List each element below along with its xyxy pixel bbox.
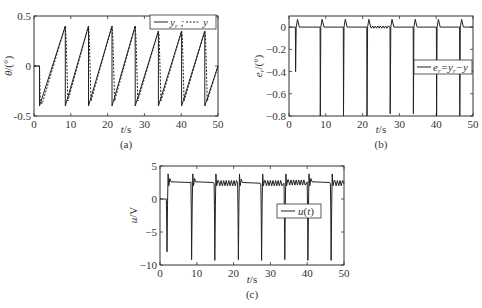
x-tick-label: 0	[31, 118, 37, 130]
caption-c: (c)	[246, 288, 259, 301]
y-tick-label: −0.4	[266, 66, 286, 78]
x-tick-label: 50	[468, 118, 480, 130]
y-tick-label: 0	[26, 60, 32, 72]
x-axis-label-c: t/s	[247, 273, 257, 285]
x-tick-label: 20	[102, 118, 114, 130]
legend-b: er=yr−y	[414, 60, 472, 75]
y-tick-label: −0.6	[266, 88, 286, 100]
x-tick-label: 10	[191, 267, 203, 279]
x-tick-label: 30	[394, 118, 406, 130]
chart-b: 010203040500−0.2−0.4−0.6−0.8 er=yr−y t/s…	[252, 16, 479, 151]
x-tick-label: 30	[265, 267, 277, 279]
caption-b: (b)	[375, 138, 388, 151]
x-tick-label: 0	[286, 118, 292, 130]
svg-text:y: y	[202, 16, 208, 28]
y-tick-label: 0.5	[17, 10, 31, 22]
chart-c: 0102030405050−5−10 u(t) t/s (c) u/V	[127, 160, 350, 301]
y-tick-label: 0	[152, 193, 158, 205]
svg-text:u(t): u(t)	[298, 205, 314, 218]
figure: 01020304050-0.500.5 yr ; y t/s (a) θ/(°)…	[0, 0, 482, 308]
x-tick-label: 10	[65, 118, 77, 130]
x-tick-label: 20	[228, 267, 240, 279]
x-tick-label: 40	[176, 118, 188, 130]
legend-c: u(t)	[277, 204, 321, 218]
x-tick-label: 40	[431, 118, 443, 130]
y-tick-label: −0.2	[266, 43, 286, 55]
y-tick-label: −10	[140, 259, 158, 271]
y-axis-label-b: er/(°)	[252, 54, 266, 77]
y-tick-label: 0	[281, 21, 287, 33]
y-tick-label: −5	[145, 226, 157, 238]
legend-a: yr ; y	[150, 15, 216, 30]
x-tick-label: 30	[139, 118, 151, 130]
y-axis-label-c: u/V	[127, 207, 139, 224]
y-tick-label: 5	[152, 160, 158, 172]
series-y	[34, 26, 218, 104]
x-axis-label-b: t/s	[376, 123, 386, 135]
x-tick-label: 10	[320, 118, 332, 130]
y-axis-label-a: θ/(°)	[2, 56, 15, 77]
caption-a: (a)	[120, 138, 133, 151]
plot-frame	[34, 16, 218, 116]
x-tick-label: 0	[157, 267, 163, 279]
x-axis-label-a: t/s	[121, 123, 131, 135]
y-tick-label: −0.8	[266, 110, 286, 122]
x-tick-label: 50	[213, 118, 225, 130]
x-tick-label: 40	[302, 267, 314, 279]
y-tick-label: -0.5	[14, 110, 32, 122]
x-tick-label: 50	[339, 267, 351, 279]
x-tick-label: 20	[357, 118, 369, 130]
chart-a: 01020304050-0.500.5 yr ; y t/s (a) θ/(°)	[2, 10, 224, 151]
